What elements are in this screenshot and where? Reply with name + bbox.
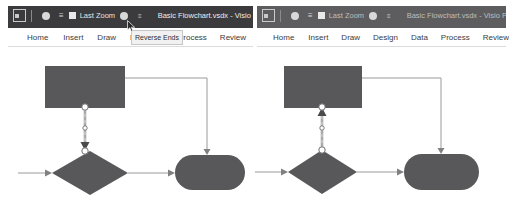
tab-draw[interactable]: Draw [97, 33, 116, 42]
decision-diamond[interactable] [52, 151, 128, 195]
tab-review[interactable]: Review [220, 33, 246, 42]
connector-decision-to-process-selected[interactable] [318, 104, 327, 153]
divider [31, 10, 32, 22]
redo-icon[interactable] [369, 12, 377, 20]
last-zoom-label[interactable]: Last Zoom [80, 11, 115, 20]
customize-qat-caret[interactable]: ≡ [138, 13, 142, 19]
tab-home[interactable]: Home [273, 33, 294, 42]
save-icon[interactable] [42, 12, 50, 20]
window-title: Basic Flowchart.vsdx - Visio P [407, 11, 506, 20]
diagram-canvas-after[interactable] [253, 50, 506, 209]
process-rectangle[interactable] [284, 66, 362, 108]
last-zoom-icon[interactable] [69, 12, 76, 19]
window-title: Basic Flowchart.vsdx - Visio P [158, 11, 253, 20]
last-zoom-icon[interactable] [318, 12, 325, 19]
last-zoom-label[interactable]: Last Zoom [329, 11, 364, 20]
ribbon: Home Insert Draw Design Data Process Rev… [257, 25, 506, 47]
ribbon-underline [8, 46, 253, 47]
connector-decision-to-terminator[interactable] [128, 170, 175, 177]
connector-inbound-to-decision[interactable] [18, 170, 52, 177]
tab-design[interactable]: Design [373, 33, 398, 42]
redo-icon[interactable] [120, 12, 128, 20]
connector-process-to-terminator[interactable] [125, 78, 211, 155]
customize-qat-caret[interactable]: ≡ [387, 13, 391, 19]
undo-icon[interactable]: ≡ [59, 12, 63, 20]
connector-endpoint-handle-start [319, 147, 325, 153]
connector-endpoint-handle-end [82, 148, 88, 154]
ribbon-underline [257, 46, 506, 47]
tab-data[interactable]: Data [411, 33, 428, 42]
divider [280, 10, 281, 22]
connector-midpoint-handle [83, 126, 87, 130]
tab-insert[interactable]: Insert [63, 33, 83, 42]
connector-decision-to-terminator[interactable] [357, 169, 404, 176]
title-bar[interactable]: ≡ Last Zoom ≡ Basic Flowchart.vsdx - Vis… [257, 6, 506, 25]
connector-endpoint-handle-end [319, 104, 325, 110]
visio-app-icon[interactable] [13, 9, 26, 22]
tab-draw[interactable]: Draw [341, 33, 360, 42]
decision-diamond[interactable] [288, 150, 357, 194]
tab-home[interactable]: Home [27, 33, 48, 42]
visio-window-before: ≡ Last Zoom ≡ Basic Flowchart.vsdx - Vis… [0, 0, 253, 209]
connector-midpoint-handle [320, 126, 324, 130]
terminator-stadium[interactable] [175, 155, 245, 190]
mouse-cursor-icon [127, 20, 136, 33]
connector-process-to-terminator[interactable] [362, 78, 445, 154]
connector-process-to-decision-selected[interactable] [81, 104, 90, 154]
connector-endpoint-handle-start [82, 104, 88, 110]
ribbon-strip [257, 25, 506, 28]
tab-process[interactable]: Process [441, 33, 470, 42]
tab-insert[interactable]: Insert [308, 33, 328, 42]
terminator-stadium[interactable] [404, 154, 479, 190]
diagram-canvas-before[interactable] [0, 50, 253, 209]
tooltip-label: Reverse Ends [135, 34, 179, 41]
visio-window-after: ≡ Last Zoom ≡ Basic Flowchart.vsdx - Vis… [253, 0, 506, 209]
ribbon-tabs: Home Insert Draw Design Data Process Rev… [257, 29, 506, 45]
process-rectangle[interactable] [45, 66, 125, 108]
undo-icon[interactable]: ≡ [308, 12, 312, 20]
save-icon[interactable] [291, 12, 299, 20]
visio-app-icon[interactable] [262, 9, 275, 22]
tab-review[interactable]: Review [483, 33, 509, 42]
reverse-ends-tooltip: Reverse Ends [131, 30, 183, 45]
connector-inbound-to-decision[interactable] [255, 169, 288, 176]
